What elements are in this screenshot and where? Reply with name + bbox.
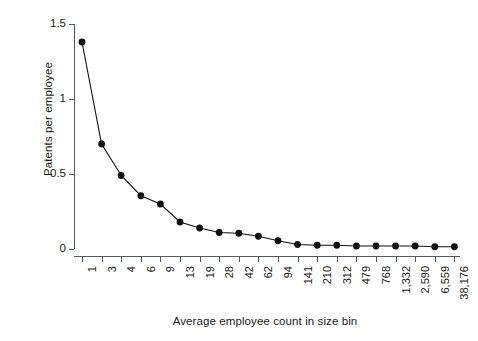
- x-tick-label: 1,332: [400, 266, 412, 294]
- x-tick-label: 6: [145, 266, 157, 272]
- x-tick-label-text: 312: [341, 266, 353, 284]
- x-tick-label-text: 19: [204, 266, 216, 278]
- x-tick: [82, 256, 83, 262]
- x-tick-label-text: 4: [125, 266, 137, 272]
- data-point: [235, 230, 242, 237]
- x-tick: [180, 256, 181, 262]
- data-point: [196, 225, 203, 232]
- x-tick-label-text: 2,590: [419, 266, 431, 294]
- y-tick-label: 0.5: [50, 167, 66, 179]
- data-point: [157, 201, 164, 208]
- x-tick-label: 4: [125, 266, 137, 272]
- x-tick-label-text: 1: [86, 266, 98, 272]
- y-tick-label: 1: [60, 92, 66, 104]
- x-tick-label: 94: [282, 266, 294, 278]
- x-tick-label: 28: [223, 266, 235, 278]
- x-tick: [337, 256, 338, 262]
- x-tick: [435, 256, 436, 262]
- data-point: [275, 237, 282, 244]
- data-point: [431, 243, 438, 250]
- x-tick-label: 6,559: [439, 266, 451, 294]
- data-point: [373, 243, 380, 250]
- x-tick-label-text: 210: [321, 266, 333, 284]
- x-tick-label: 38,176: [458, 266, 470, 300]
- data-point: [255, 233, 262, 240]
- x-tick: [396, 256, 397, 262]
- x-tick: [317, 256, 318, 262]
- x-tick: [356, 256, 357, 262]
- x-tick-label: 2,590: [419, 266, 431, 294]
- x-tick-label-text: 6: [145, 266, 157, 272]
- x-tick-label-text: 9: [164, 266, 176, 272]
- x-tick: [160, 256, 161, 262]
- x-tick-label: 768: [380, 266, 392, 284]
- x-tick-label: 1: [86, 266, 98, 272]
- data-point: [137, 192, 144, 199]
- y-tick-label: 1.5: [50, 17, 66, 29]
- data-point: [412, 243, 419, 250]
- y-axis-title: Patents per employee: [42, 9, 54, 229]
- x-axis-title: Average employee count in size bin: [70, 315, 460, 327]
- chart-figure: Patents per employee 00.511.5 1346913192…: [0, 0, 478, 341]
- x-tick: [298, 256, 299, 262]
- x-tick-label-text: 42: [243, 266, 255, 278]
- data-point: [333, 242, 340, 249]
- x-tick: [278, 256, 279, 262]
- x-tick-label-text: 94: [282, 266, 294, 278]
- x-tick-label: 210: [321, 266, 333, 284]
- x-tick-label: 141: [302, 266, 314, 284]
- data-point: [177, 219, 184, 226]
- x-tick-label-text: 6,559: [439, 266, 451, 294]
- x-tick: [141, 256, 142, 262]
- x-tick: [219, 256, 220, 262]
- x-tick-label: 312: [341, 266, 353, 284]
- data-point: [79, 39, 86, 46]
- series-points: [79, 39, 458, 251]
- x-tick-label: 3: [106, 266, 118, 272]
- data-point: [392, 243, 399, 250]
- x-tick: [121, 256, 122, 262]
- x-tick: [376, 256, 377, 262]
- x-tick-label-text: 479: [360, 266, 372, 284]
- x-tick: [454, 256, 455, 262]
- x-tick-label-text: 3: [106, 266, 118, 272]
- x-tick-label-text: 1,332: [400, 266, 412, 294]
- y-tick-label: 0: [60, 242, 66, 254]
- x-tick: [200, 256, 201, 262]
- data-point: [118, 172, 125, 179]
- x-tick-label: 9: [164, 266, 176, 272]
- x-tick-label-text: 28: [223, 266, 235, 278]
- x-tick: [415, 256, 416, 262]
- data-point: [451, 243, 458, 250]
- x-tick-label-text: 38,176: [458, 266, 470, 300]
- x-axis-line: [74, 256, 460, 257]
- data-point: [294, 241, 301, 248]
- x-tick-label-text: 141: [302, 266, 314, 284]
- x-tick: [102, 256, 103, 262]
- plot-area: 00.511.5 1346913192842629414121031247976…: [74, 18, 460, 256]
- x-tick-label-text: 13: [184, 266, 196, 278]
- x-tick-label: 62: [262, 266, 274, 278]
- series-line: [82, 42, 454, 247]
- x-tick: [258, 256, 259, 262]
- x-tick-label: 19: [204, 266, 216, 278]
- data-series: [74, 18, 460, 256]
- data-point: [353, 243, 360, 250]
- x-tick-label-text: 62: [262, 266, 274, 278]
- data-point: [98, 141, 105, 148]
- data-point: [314, 242, 321, 249]
- x-tick-label: 13: [184, 266, 196, 278]
- x-tick-label-text: 768: [380, 266, 392, 284]
- x-tick-label: 479: [360, 266, 372, 284]
- x-tick: [239, 256, 240, 262]
- data-point: [216, 229, 223, 236]
- x-tick-label: 42: [243, 266, 255, 278]
